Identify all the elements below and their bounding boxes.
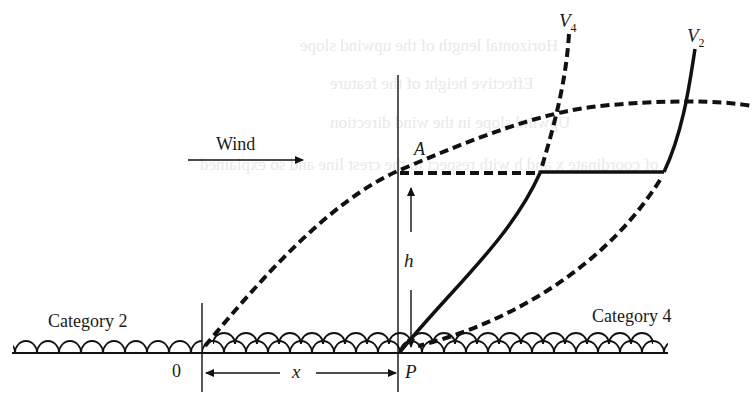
terrain-category-2-roughness <box>13 336 202 354</box>
v4-profile-dashed <box>540 34 569 173</box>
origin-zero-label: 0 <box>172 362 181 380</box>
v2-label-main: V <box>687 25 699 46</box>
category-2-label: Category 2 <box>48 312 127 330</box>
v2-profile-solid <box>664 49 695 172</box>
point-a-label: A <box>414 140 425 158</box>
v2-label: V2 <box>687 26 705 49</box>
distance-x-label: x <box>292 362 300 381</box>
wind-label: Wind <box>216 135 255 153</box>
v4-label: V4 <box>559 11 577 34</box>
v4-profile-solid <box>400 173 540 352</box>
wind-diagram <box>0 0 752 395</box>
category-4-label: Category 4 <box>592 307 671 325</box>
v4-label-subscript: 4 <box>571 21 577 35</box>
v4-label-main: V <box>559 10 571 31</box>
v2-label-subscript: 2 <box>699 36 705 50</box>
height-h-label: h <box>404 251 414 270</box>
point-p-label: P <box>405 362 417 381</box>
